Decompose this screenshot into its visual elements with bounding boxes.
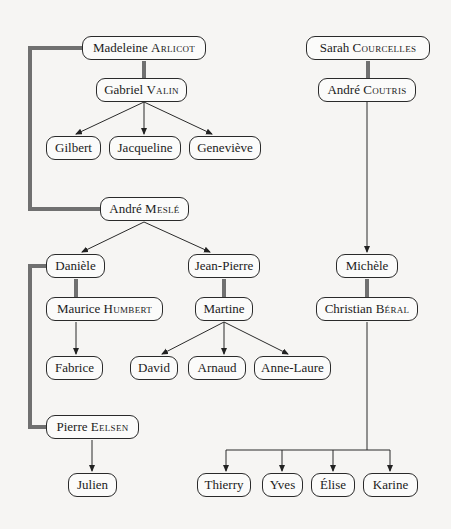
person-daniele: Danièle — [46, 254, 105, 278]
person-michele: Michèle — [336, 254, 398, 278]
person-karine: Karine — [363, 473, 418, 497]
person-madeleine-arlicot: Madeleine Arlicot — [82, 36, 206, 60]
person-julien: Julien — [68, 473, 117, 497]
person-anne-laure: Anne-Laure — [254, 356, 331, 380]
person-maurice-humbert: Maurice Humbert — [46, 297, 163, 321]
person-jean-pierre: Jean-Pierre — [188, 254, 260, 278]
family-tree-diagram: Madeleine Arlicot Gabriel Valin Gilbert … — [0, 0, 451, 529]
person-pierre-eelsen: Pierre Eelsen — [46, 415, 139, 439]
person-david: David — [130, 356, 178, 380]
person-andre-mesle: André Meslé — [100, 197, 189, 221]
person-gabriel-valin: Gabriel Valin — [96, 78, 187, 102]
person-martine: Martine — [195, 297, 253, 321]
person-thierry: Thierry — [197, 473, 251, 497]
person-andre-coutris: André Coutris — [318, 78, 416, 102]
person-arnaud: Arnaud — [188, 356, 246, 380]
person-genevieve: Geneviève — [189, 136, 261, 160]
person-elise: Élise — [311, 473, 355, 497]
person-jacqueline: Jacqueline — [109, 136, 181, 160]
person-gilbert: Gilbert — [46, 136, 101, 160]
person-christian-beral: Christian Béral — [316, 297, 418, 321]
person-fabrice: Fabrice — [46, 356, 103, 380]
person-sarah-courcelles: Sarah Courcelles — [306, 36, 430, 60]
person-yves: Yves — [262, 473, 303, 497]
